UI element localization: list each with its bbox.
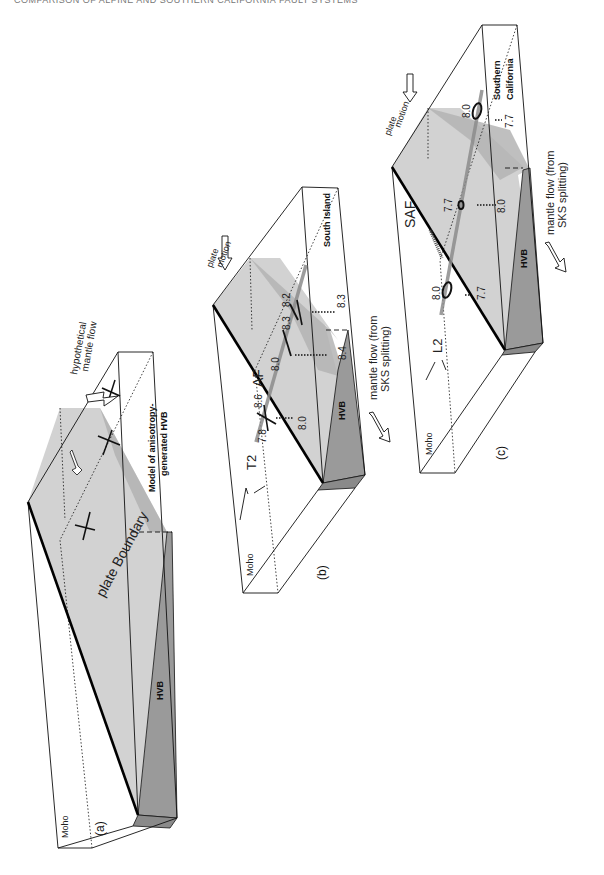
- panel-b-hvb-label: HVB: [337, 400, 347, 420]
- panel-a: (a) Moho plate Boundary HVB Model of ani…: [28, 320, 177, 848]
- panel-b: (b) Moho T2 AF HVB South Island plate mo…: [204, 187, 391, 593]
- panel-a-hvb-label: HVB: [155, 680, 165, 700]
- panel-c-moho-label: Moho: [424, 432, 434, 455]
- panel-c-region-2: California: [505, 57, 515, 100]
- panel-c-region-1: Southern: [492, 61, 502, 101]
- panel-c-plate-motion-arrow: [403, 74, 417, 102]
- panel-c-mantle-flow-1: mantle flow (from: [544, 151, 556, 235]
- panel-b-value-8-3-a: 8.3: [281, 316, 292, 330]
- panel-c-value-8-0-b: 8.0: [496, 199, 507, 213]
- panel-a-model-label-1: Model of anisotropy-: [147, 404, 157, 493]
- panel-c-l2-label: L2: [430, 339, 445, 353]
- panel-a-label: (a): [93, 821, 107, 836]
- panel-b-mantle-flow-2: SKS splitting): [379, 326, 391, 392]
- panel-c-saf-label: SAF: [402, 201, 418, 228]
- panel-b-region-label: South Island: [322, 193, 332, 247]
- panel-b-mantle-flow-1: mantle flow (from: [367, 316, 379, 400]
- panel-b-t2-label: T2: [244, 455, 259, 470]
- panel-b-value-8-0-b: 8.0: [270, 357, 281, 371]
- panel-b-value-8-3-b: 8.3: [336, 294, 347, 308]
- panel-a-model-label-2: generated HVB: [159, 411, 169, 476]
- panel-b-value-8-6: 8.6: [253, 394, 264, 408]
- panel-c-hvb-label: HVB: [519, 248, 529, 268]
- panel-b-mantle-flow-arrow: [369, 412, 390, 442]
- panel-c-mantle-flow-arrow: [545, 242, 566, 272]
- panel-c-plate-motion-2: motion: [392, 100, 411, 129]
- panel-c-label: (c): [494, 446, 508, 460]
- panel-a-moho-label: Moho: [60, 815, 70, 838]
- panel-c: (c) Moho L2 SAF HVB Southern California …: [382, 25, 568, 473]
- figure-diagram: (a) Moho plate Boundary HVB Model of ani…: [0, 0, 604, 875]
- panel-b-value-8-0-a: 8.0: [297, 416, 308, 430]
- panel-c-value-7-7-c: 7.7: [504, 114, 515, 128]
- panel-b-af-label: AF: [250, 369, 266, 387]
- panel-b-value-7-8: 7.8: [257, 429, 268, 443]
- panel-c-value-8-0-a: 8.0: [431, 286, 442, 300]
- panel-c-mantle-flow-2: SKS splitting): [556, 162, 568, 228]
- panel-b-value-8-4: 8.4: [337, 346, 348, 360]
- panel-b-value-8-2: 8.2: [281, 293, 292, 307]
- panel-c-value-7-7-b: 7.7: [443, 198, 454, 212]
- panel-b-moho-label: Moho: [245, 553, 255, 576]
- panel-c-value-7-7-a: 7.7: [476, 286, 487, 300]
- panel-c-value-8-0-c: 8.0: [461, 104, 472, 118]
- panel-b-label: (b): [315, 565, 329, 580]
